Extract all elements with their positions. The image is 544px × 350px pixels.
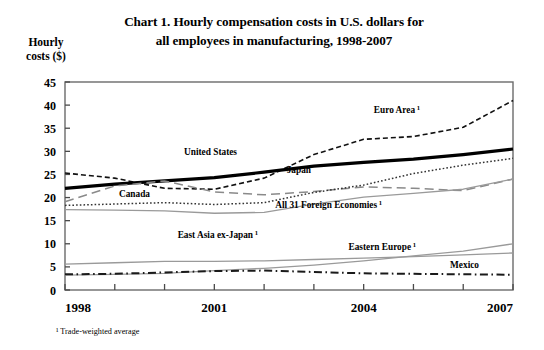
x-tick-label: 2004 [351,300,378,315]
series-label: East Asia ex-Japan 1 [178,229,258,240]
plot-border [65,82,513,290]
x-tick-label: 1998 [65,300,92,315]
y-tick-label: 30 [44,145,56,159]
plot-frame [65,82,513,290]
x-tick-label: 2007 [487,300,514,315]
series-lines [65,100,513,275]
series-label: Euro Area 1 [374,104,420,115]
y-tick-label: 10 [44,237,56,251]
series-label: All 31 Foreign Economies 1 [275,199,382,210]
series-line [65,244,513,275]
series-line [65,271,513,275]
y-tick-label: 25 [44,168,56,182]
y-tick-label: 20 [44,191,56,205]
series-label: United States [184,147,237,157]
x-tick-label: 2001 [201,300,227,315]
series-label: Eastern Europe 1 [348,241,416,252]
footnote: ¹ Trade-weighted average [56,327,139,336]
series-labels: Euro Area 1United StatesJapanCanadaAll 3… [119,104,479,270]
y-tick-label: 0 [50,284,56,298]
y-tick-label: 45 [44,76,56,90]
series-label: Canada [119,189,150,199]
y-tick-label: 40 [44,99,56,113]
y-tick-label: 5 [50,260,56,274]
series-label: Mexico [450,260,479,270]
chart-page: Chart 1. Hourly compensation costs in U.… [0,0,544,350]
y-tick-label: 35 [44,122,56,136]
series-label: Japan [287,165,312,175]
chart-plot: 051015202530354045 1998200120042007 Euro… [0,0,544,350]
x-axis-ticks: 1998200120042007 [65,284,514,315]
series-line [65,253,513,264]
y-tick-label: 15 [44,214,56,228]
series-line [65,100,513,189]
